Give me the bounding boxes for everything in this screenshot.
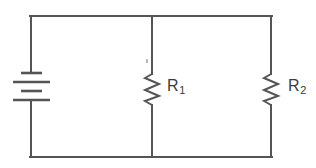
- resistor-r2-label-subscript: 2: [300, 84, 306, 96]
- resistor-r1-label-text: R: [167, 77, 179, 94]
- resistor-r1-zigzag-icon: [145, 74, 159, 105]
- resistor-r1-label: R1: [167, 78, 185, 94]
- resistor-r2-label-text: R: [288, 77, 300, 94]
- resistor-r2-zigzag-icon: [264, 74, 278, 105]
- resistor-r1-label-subscript: 1: [179, 84, 185, 96]
- circuit-schematic-canvas: [0, 0, 316, 168]
- circuit-diagram: R1 R2: [0, 0, 316, 168]
- resistor-r2-label: R2: [288, 78, 306, 94]
